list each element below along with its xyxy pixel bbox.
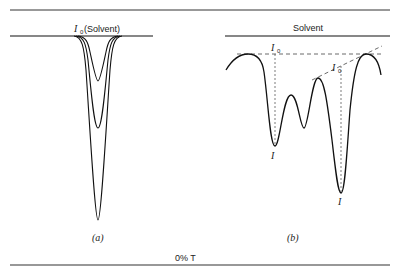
- absorption-diagram: I 0 (Solvent) (a) Solvent I 0 I 0 I I (b…: [0, 0, 395, 271]
- i0-baseline-sloped: [312, 46, 382, 80]
- i-label-1: I: [270, 150, 275, 161]
- panel-b: Solvent I 0 I 0 I I (b): [225, 23, 390, 244]
- i0-symbol-a: I: [73, 23, 78, 34]
- panel-a: I 0 (Solvent) (a): [10, 23, 153, 244]
- spectrum-curve: [226, 54, 381, 193]
- i-label-2: I: [337, 196, 342, 207]
- solvent-label-b: Solvent: [293, 23, 324, 33]
- caption-b: (b): [287, 232, 299, 244]
- caption-a: (a): [92, 232, 104, 244]
- i0-subscript-2: 0: [338, 68, 342, 74]
- i0-symbol-2: I: [331, 62, 336, 73]
- absorption-band-medium: [76, 36, 120, 128]
- zero-transmittance-label: 0% T: [175, 253, 196, 263]
- i0-subscript-1: 0: [277, 48, 281, 54]
- i0-symbol-1: I: [270, 42, 275, 53]
- solvent-label-a: (Solvent): [84, 24, 120, 34]
